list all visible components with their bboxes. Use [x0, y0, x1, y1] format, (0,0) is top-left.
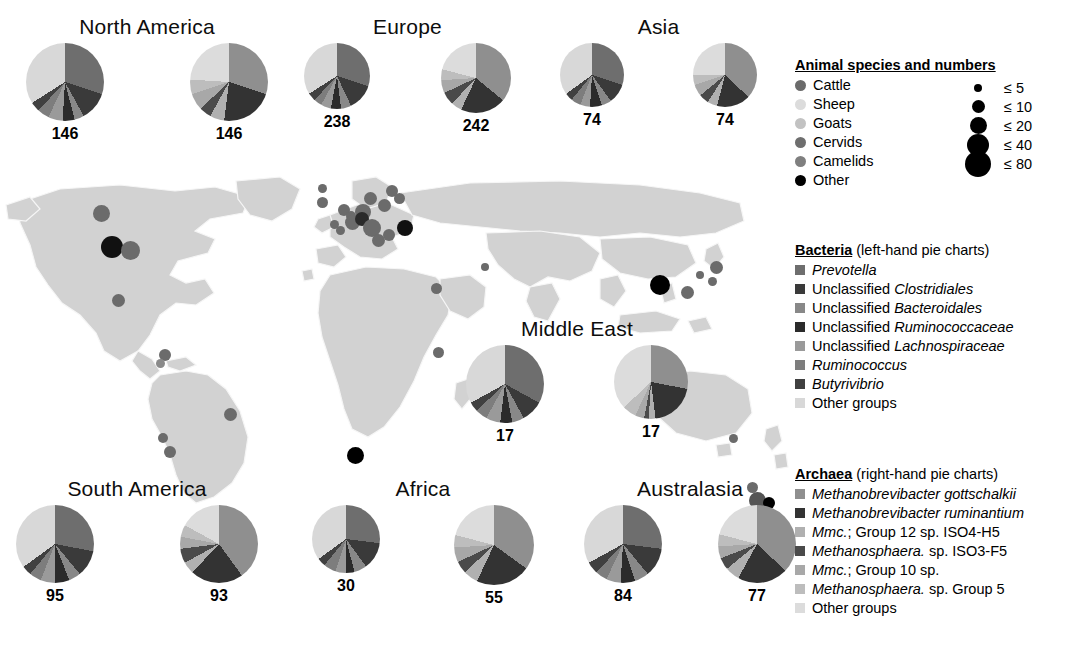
map-sample-dot[interactable]	[372, 234, 385, 247]
pie-count-africa-bacteria: 30	[337, 578, 355, 594]
map-sample-dot[interactable]	[318, 184, 327, 193]
map-sample-dot[interactable]	[101, 236, 123, 258]
legend-archaea-label: Methanosphaera. sp. ISO3-F5	[812, 544, 1007, 559]
map-sample-dot[interactable]	[681, 286, 694, 299]
animal-swatch-icon	[795, 156, 806, 167]
legend-archaea-label: Mmc.; Group 10 sp.	[812, 563, 939, 578]
legend-animals-title: Animal species and numbers	[795, 58, 1069, 74]
map-sample-dot[interactable]	[696, 271, 704, 279]
pie-cell-middle-east-bacteria: 17	[466, 345, 544, 444]
pie-chart-australasia-bacteria[interactable]	[584, 505, 662, 583]
legend-bacteria-title: Bacteria (left-hand pie charts)	[795, 243, 1069, 259]
pie-chart-europe-archaea[interactable]	[441, 43, 511, 113]
legend-size-row: ≤ 20	[958, 116, 1068, 135]
pie-cell-south-america-archaea: 93	[180, 505, 258, 604]
pie-count-south-america-archaea: 93	[210, 588, 228, 604]
pie-chart-middle-east-bacteria[interactable]	[466, 345, 544, 423]
size-dot-wrap	[958, 151, 998, 177]
pie-chart-middle-east-archaea[interactable]	[614, 345, 688, 419]
legend-archaea: Archaea (right-hand pie charts) Methanob…	[795, 467, 1069, 618]
bacteria-swatch-icon	[795, 360, 805, 370]
pie-chart-asia-archaea[interactable]	[693, 43, 757, 107]
map-sample-dot[interactable]	[708, 277, 717, 286]
map-sample-dot[interactable]	[729, 434, 738, 443]
animal-swatch-icon	[795, 137, 806, 148]
pie-chart-asia-bacteria[interactable]	[560, 43, 624, 107]
region-title-south-america: South America	[12, 478, 262, 499]
legend-archaea-row: Methanosphaera. sp. Group 5	[795, 580, 1069, 599]
size-scale-dot-icon	[965, 151, 991, 177]
map-sample-dot[interactable]	[397, 220, 413, 236]
map-sample-dot[interactable]	[481, 263, 489, 271]
legend-archaea-subtitle: (right-hand pie charts)	[856, 466, 998, 482]
pie-chart-africa-archaea[interactable]	[454, 505, 534, 585]
legend-archaea-label: Other groups	[812, 601, 897, 616]
pie-count-australasia-bacteria: 84	[614, 588, 632, 604]
map-sample-dot[interactable]	[347, 447, 364, 464]
pie-chart-north-america-bacteria[interactable]	[26, 43, 104, 121]
legend-size-row: ≤ 10	[958, 97, 1068, 116]
map-sample-dot[interactable]	[156, 359, 165, 368]
pie-chart-south-america-bacteria[interactable]	[16, 505, 94, 583]
map-sample-dot[interactable]	[433, 347, 444, 358]
map-sample-dot[interactable]	[710, 261, 723, 274]
size-scale-dot-icon	[974, 84, 982, 92]
map-sample-dot[interactable]	[431, 283, 442, 294]
legend-archaea-label: Methanobrevibacter ruminantium	[812, 506, 1024, 521]
bacteria-swatch-icon	[795, 303, 805, 313]
map-sample-dot[interactable]	[164, 446, 176, 458]
legend-size-label: ≤ 40	[1004, 137, 1032, 153]
map-sample-dot[interactable]	[378, 199, 391, 212]
pie-count-australasia-archaea: 77	[748, 588, 766, 604]
legend-archaea-title: Archaea (right-hand pie charts)	[795, 467, 1069, 483]
size-dot-wrap	[958, 84, 998, 92]
map-sample-dot[interactable]	[93, 205, 110, 222]
region-group-asia: Asia7474	[556, 16, 761, 128]
bacteria-swatch-icon	[795, 322, 805, 332]
archaea-swatch-icon	[795, 603, 805, 613]
legend-bacteria-label: Unclassified Bacteroidales	[812, 301, 982, 316]
legend-archaea-items: Methanobrevibacter gottschalkiiMethanobr…	[795, 485, 1069, 618]
legend-bacteria-row: Unclassified Ruminococcaceae	[795, 318, 1069, 337]
pie-count-asia-archaea: 74	[716, 112, 734, 128]
map-sample-dot[interactable]	[383, 229, 395, 241]
legend-bacteria-label: Unclassified Lachnospiraceae	[812, 339, 1005, 354]
pie-cell-north-america-archaea: 146	[190, 43, 268, 142]
bacteria-swatch-icon	[795, 398, 805, 408]
map-sample-dot[interactable]	[336, 226, 345, 235]
region-title-africa: Africa	[308, 478, 538, 499]
map-sample-dot[interactable]	[317, 197, 328, 208]
legend-archaea-row: Mmc.; Group 12 sp. ISO4-H5	[795, 523, 1069, 542]
map-sample-dot[interactable]	[112, 294, 125, 307]
pie-chart-north-america-archaea[interactable]	[190, 43, 268, 121]
map-sample-dot[interactable]	[121, 241, 140, 260]
legend-archaea-row: Mmc.; Group 10 sp.	[795, 561, 1069, 580]
pie-chart-south-america-archaea[interactable]	[180, 505, 258, 583]
pie-cell-europe-bacteria: 238	[304, 43, 370, 130]
legend-archaea-label: Mmc.; Group 12 sp. ISO4-H5	[812, 525, 1000, 540]
pie-chart-europe-bacteria[interactable]	[304, 43, 370, 109]
region-group-australasia: Australasia8477	[580, 478, 800, 604]
pie-count-north-america-bacteria: 146	[52, 126, 79, 142]
archaea-swatch-icon	[795, 565, 805, 575]
map-sample-dot[interactable]	[224, 408, 237, 421]
pie-chart-australasia-archaea[interactable]	[718, 505, 796, 583]
map-sample-dot[interactable]	[650, 275, 670, 295]
size-dot-wrap	[958, 100, 998, 113]
legend-animal-label: Sheep	[813, 97, 855, 112]
map-sample-dot[interactable]	[158, 433, 168, 443]
pie-cell-australasia-bacteria: 84	[584, 505, 662, 604]
bacteria-swatch-icon	[795, 379, 805, 389]
map-sample-dot[interactable]	[364, 192, 377, 205]
legend-archaea-label: Methanobrevibacter gottschalkii	[812, 487, 1016, 502]
legend-bacteria-row: Other groups	[795, 394, 1069, 413]
map-sample-dot[interactable]	[394, 193, 405, 204]
pie-count-africa-archaea: 55	[485, 590, 503, 606]
pie-chart-africa-bacteria[interactable]	[312, 505, 380, 573]
legend-bacteria-row: Prevotella	[795, 261, 1069, 280]
legend-animal-label: Cattle	[813, 78, 851, 93]
pie-count-middle-east-archaea: 17	[642, 424, 660, 440]
legend-archaea-row: Methanobrevibacter ruminantium	[795, 504, 1069, 523]
legend-size-key: ≤ 5≤ 10≤ 20≤ 40≤ 80	[958, 78, 1068, 173]
legend-archaea-row: Methanosphaera. sp. ISO3-F5	[795, 542, 1069, 561]
